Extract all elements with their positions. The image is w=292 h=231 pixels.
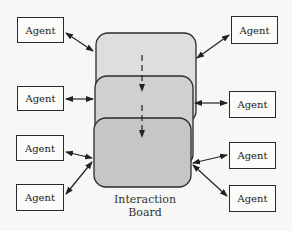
agent-label: Agent xyxy=(26,93,56,104)
agent-label: Agent xyxy=(238,150,268,161)
agent-label: Agent xyxy=(25,192,55,203)
agent-left-3: Agent xyxy=(16,135,64,161)
connector-right-1 xyxy=(197,35,229,58)
agent-label: Agent xyxy=(25,143,55,154)
interaction-board-diagram: Agent Agent Agent Agent Agent Agent Agen… xyxy=(0,0,292,231)
agent-left-1: Agent xyxy=(17,17,64,43)
connector-left-3 xyxy=(66,152,92,158)
agent-right-3: Agent xyxy=(229,142,276,169)
agent-right-4: Agent xyxy=(229,185,276,212)
board-caption: Interaction Board xyxy=(100,193,190,219)
agent-label: Agent xyxy=(26,25,56,36)
connector-right-4 xyxy=(193,165,227,196)
agent-label: Agent xyxy=(238,99,268,110)
caption-line-1: Interaction xyxy=(100,193,190,206)
connector-left-1 xyxy=(66,33,93,51)
agent-left-4: Agent xyxy=(16,184,64,211)
agent-right-2: Agent xyxy=(229,91,276,118)
connector-left-4 xyxy=(66,162,92,194)
connector-right-3 xyxy=(193,155,227,163)
agent-left-2: Agent xyxy=(17,86,64,111)
caption-line-2: Board xyxy=(100,206,190,219)
agent-label: Agent xyxy=(238,193,268,204)
agent-label: Agent xyxy=(240,25,270,36)
agent-right-1: Agent xyxy=(231,16,278,44)
